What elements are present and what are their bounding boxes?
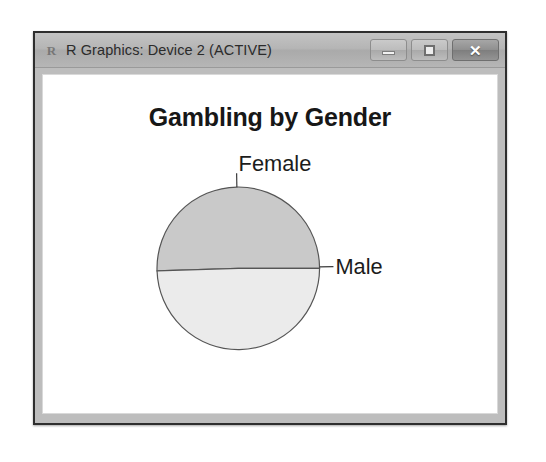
pie-slice <box>157 187 320 271</box>
r-app-icon: R <box>43 42 60 59</box>
maximize-icon <box>424 45 435 56</box>
pie-slices <box>157 187 320 350</box>
window-controls: ✕ <box>370 39 501 61</box>
pie-slice <box>157 268 320 349</box>
pie-slice-label: Male <box>335 254 382 279</box>
close-button[interactable]: ✕ <box>452 39 499 61</box>
minimize-icon <box>382 51 395 55</box>
pie-chart: FemaleMale <box>43 75 497 413</box>
window-titlebar[interactable]: R R Graphics: Device 2 (ACTIVE) ✕ <box>35 33 505 68</box>
minimize-button[interactable] <box>370 39 407 61</box>
maximize-button[interactable] <box>411 39 448 61</box>
r-logo-glyph: R <box>43 42 60 59</box>
r-graphics-window: R R Graphics: Device 2 (ACTIVE) ✕ Gambli… <box>33 31 507 425</box>
window-title: R Graphics: Device 2 (ACTIVE) <box>66 42 272 58</box>
close-icon: ✕ <box>469 43 482 58</box>
window-client-area: Gambling by Gender FemaleMale <box>35 68 505 423</box>
pie-slice-label: Female <box>239 151 312 176</box>
plot-surface: Gambling by Gender FemaleMale <box>42 74 498 414</box>
